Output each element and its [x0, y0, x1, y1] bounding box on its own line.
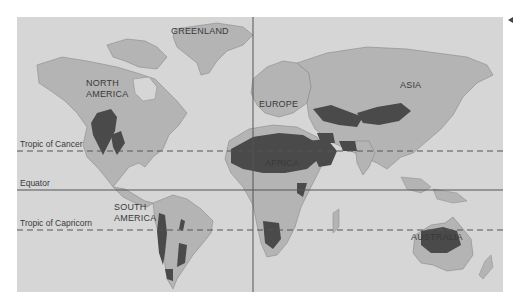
map-graphic	[17, 17, 503, 292]
label-africa: AFRICA	[265, 158, 299, 169]
label-south-america-line1: SOUTH	[114, 202, 147, 213]
label-south-america-line2: AMERICA	[114, 213, 156, 224]
side-marker-arrow-icon	[508, 17, 513, 23]
label-equator: Equator	[20, 178, 50, 188]
label-australia: AUSTRALIA	[411, 232, 463, 243]
label-tropic-of-cancer: Tropic of Cancer	[20, 139, 83, 149]
label-tropic-of-capricorn: Tropic of Capricorn	[20, 218, 92, 228]
label-north-america-line1: NORTH	[86, 78, 119, 89]
label-greenland: GREENLAND	[171, 26, 229, 37]
label-europe: EUROPE	[259, 99, 298, 110]
label-asia: ASIA	[400, 80, 421, 91]
world-map: GREENLAND NORTH AMERICA EUROPE ASIA AFRI…	[17, 17, 503, 292]
label-north-america-line2: AMERICA	[86, 89, 128, 100]
